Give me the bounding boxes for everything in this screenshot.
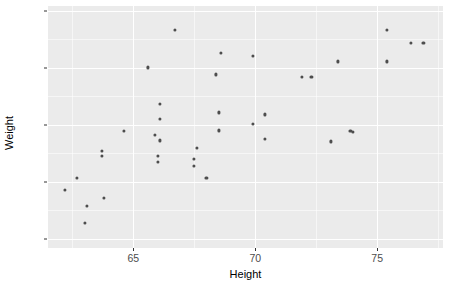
x-tick-mark [377,248,378,251]
data-point [263,113,266,116]
gridline-horizontal-minor [48,39,443,40]
gridline-vertical-minor [316,6,317,248]
data-point [102,197,105,200]
gridline-vertical-minor [194,6,195,248]
data-point [220,51,223,54]
data-point [385,60,388,63]
data-point [310,75,313,78]
gridline-horizontal-major [48,125,443,126]
x-tick-mark [255,248,256,251]
y-tick-mark [44,10,47,11]
gridline-vertical-minor [72,6,73,248]
scatter-plot-figure: 100125150175200 657075 Height Weight [0,0,450,293]
gridline-horizontal-major [48,239,443,240]
data-point [422,41,425,44]
x-tick-label: 70 [235,252,275,264]
data-point [251,54,254,57]
y-tick-mark [44,67,47,68]
gridline-vertical-minor [438,6,439,248]
data-point [217,129,220,132]
data-point [193,164,196,167]
data-point [193,157,196,160]
data-point [83,222,86,225]
data-point [63,188,66,191]
x-tick-mark [133,248,134,251]
data-point [217,111,220,114]
x-tick-label: 75 [357,252,397,264]
y-axis-title: Weight [3,103,15,163]
x-axis-title: Height [48,268,443,280]
gridline-horizontal-major [48,182,443,183]
data-point [263,138,266,141]
gridline-vertical-major [255,6,256,248]
gridline-horizontal-major [48,68,443,69]
data-point [154,133,157,136]
gridline-vertical-major [377,6,378,248]
data-point [159,139,162,142]
data-point [100,149,103,152]
data-point [215,73,218,76]
gridline-vertical-major [133,6,134,248]
gridline-horizontal-minor [48,153,443,154]
data-point [410,41,413,44]
data-point [76,176,79,179]
data-point [85,204,88,207]
data-point [122,129,125,132]
data-point [156,160,159,163]
data-point [159,102,162,105]
y-tick-mark [44,238,47,239]
y-tick-mark [44,181,47,182]
data-point [351,130,354,133]
gridline-horizontal-major [48,11,443,12]
gridline-horizontal-minor [48,210,443,211]
plot-panel [48,6,443,248]
x-tick-label: 65 [113,252,153,264]
data-point [337,60,340,63]
y-tick-mark [44,124,47,125]
data-point [159,117,162,120]
data-point [300,75,303,78]
data-point [156,154,159,157]
gridline-horizontal-minor [48,96,443,97]
data-point [205,176,208,179]
data-point [329,140,332,143]
data-point [173,28,176,31]
data-point [195,146,198,149]
data-point [385,28,388,31]
data-point [100,154,103,157]
